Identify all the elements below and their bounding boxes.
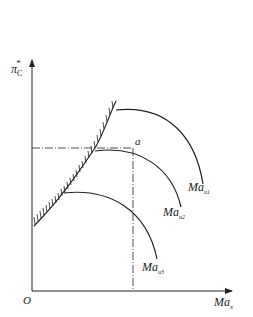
point-a-label: a bbox=[135, 135, 141, 147]
compressor-map-diagram: πC* Max O bbox=[0, 0, 253, 317]
speed-line-mau1 bbox=[116, 109, 203, 184]
x-axis-label: Max bbox=[213, 295, 234, 311]
speed-line-mau3 bbox=[64, 192, 157, 259]
origin-label: O bbox=[23, 294, 31, 306]
curve-label-mau3: Mau3 bbox=[141, 260, 164, 275]
surge-line-hatching bbox=[34, 101, 113, 224]
y-axis-label: πC* bbox=[11, 58, 22, 78]
curve-label-mau2: Mau2 bbox=[162, 205, 185, 220]
curve-label-mau1: Mau1 bbox=[187, 180, 210, 195]
speed-line-mau2 bbox=[95, 150, 181, 207]
